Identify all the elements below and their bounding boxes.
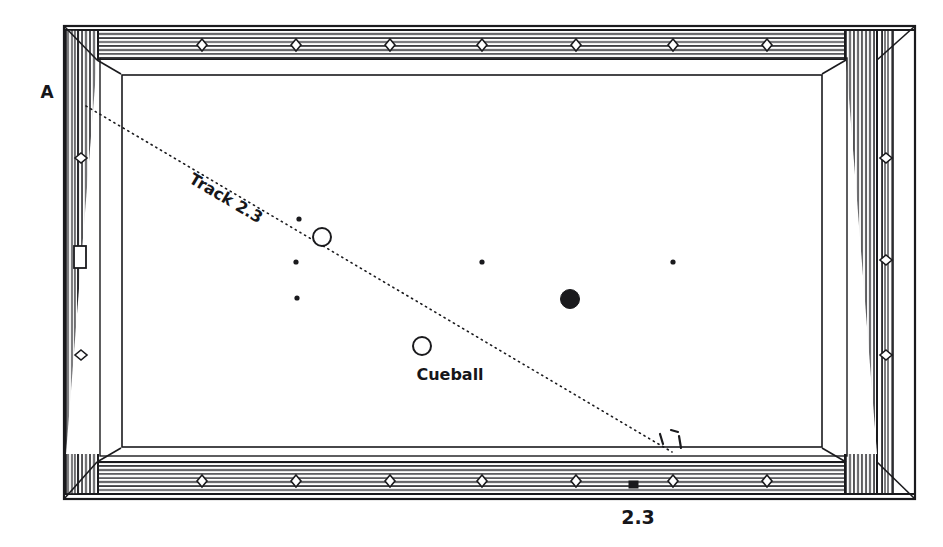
rail-top	[97, 30, 846, 60]
left-rail-plate	[74, 246, 86, 268]
diagram-canvas: A Track 2.3 Cueball 2.3	[0, 0, 943, 547]
table-frame	[64, 26, 915, 499]
billiard-table-diagram: A Track 2.3 Cueball 2.3	[0, 0, 943, 547]
target-ball	[561, 290, 580, 309]
rail-bottom	[97, 462, 846, 494]
cueball-label: Cueball	[416, 365, 483, 384]
spot-right	[670, 259, 675, 264]
playing-surface	[122, 75, 822, 447]
spot-left-middle	[293, 259, 298, 264]
object-ball	[313, 228, 331, 246]
cueball	[413, 337, 431, 355]
corner-label-a: A	[40, 82, 54, 102]
spot-left-lower	[294, 295, 299, 300]
spot-left-upper	[296, 216, 301, 221]
bottom-rail-dark-marker	[629, 481, 638, 488]
spot-center	[479, 259, 484, 264]
bottom-label-2-3: 2.3	[621, 506, 655, 528]
